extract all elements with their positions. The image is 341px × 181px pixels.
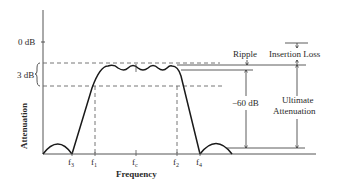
f2-label: f2 [173, 157, 179, 168]
f4-label: f4 [196, 157, 202, 168]
insertion-loss-label: Insertion Loss [269, 49, 321, 59]
ultimate-label-line1: Ultimate [282, 95, 314, 105]
f1-label: f1 [91, 157, 97, 168]
filter-diagram: 0 dB 3 dB f3 f1 fc f2 f4 Frequency Atten… [0, 0, 341, 181]
three-db-brace [35, 63, 40, 86]
fc-label: fc [132, 157, 138, 168]
three-db-label: 3 dB [17, 70, 34, 80]
diagram-canvas: 0 dB 3 dB f3 f1 fc f2 f4 Frequency Atten… [0, 0, 341, 181]
zero-db-label: 0 dB [18, 37, 35, 47]
ripple-label: Ripple [233, 49, 257, 59]
sixty-db-label: −60 dB [232, 98, 259, 108]
left-sidelobe [43, 144, 72, 154]
right-sidelobe [200, 144, 232, 155]
ultimate-label-line2: Attenuation [273, 106, 316, 116]
y-axis-label: Attenuation [19, 103, 29, 149]
f3-label: f3 [68, 157, 74, 168]
passband-curve [72, 65, 200, 154]
x-axis-label: Frequency [116, 169, 157, 179]
